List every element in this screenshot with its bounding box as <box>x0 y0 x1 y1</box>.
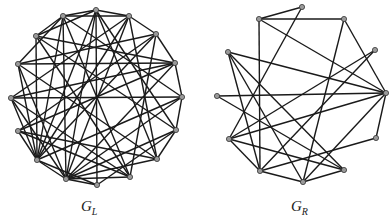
graph-canvas <box>0 0 392 221</box>
graph-edge <box>228 52 260 171</box>
graph-node <box>8 95 13 100</box>
graph-node <box>33 33 38 38</box>
graph-node <box>225 49 230 54</box>
graph-node <box>214 93 219 98</box>
graph-edge <box>63 16 182 97</box>
graph-node <box>154 156 159 161</box>
graph-node <box>226 136 231 141</box>
graph-node <box>256 16 261 21</box>
graph-node <box>94 182 99 187</box>
graph-node <box>15 128 20 133</box>
graph-node <box>373 135 378 140</box>
graph-edge <box>260 50 375 171</box>
graph-node <box>172 60 177 65</box>
graph-edge <box>18 63 175 64</box>
graph-node <box>300 179 305 184</box>
graph-node <box>153 31 158 36</box>
graph-node <box>60 13 65 18</box>
graph-edge <box>11 98 130 177</box>
graph-edge <box>259 7 302 19</box>
graph-edge <box>175 63 182 97</box>
graph-node <box>34 157 39 162</box>
graph-edge <box>260 171 303 182</box>
graph-node <box>179 94 184 99</box>
graph-node <box>173 127 178 132</box>
graph-edge <box>63 10 96 16</box>
graph-edge <box>37 16 129 160</box>
graph-node <box>383 90 388 95</box>
graph-node <box>15 61 20 66</box>
graph-edge <box>176 97 182 130</box>
graph-gl <box>8 7 184 187</box>
graph-node <box>63 176 68 181</box>
graph-node <box>341 167 346 172</box>
graph-gr <box>214 4 388 184</box>
graph-node <box>372 47 377 52</box>
graph-node <box>126 13 131 18</box>
graph-node <box>257 168 262 173</box>
graph-edge <box>229 50 375 139</box>
graph-node <box>299 4 304 9</box>
graph-edge <box>129 16 156 34</box>
graph-edge <box>96 10 129 16</box>
graph-node <box>93 7 98 12</box>
graph-edge <box>156 34 175 63</box>
graph-label-gl: GL <box>81 198 97 217</box>
graph-node <box>341 16 346 21</box>
graph-edge <box>66 179 97 185</box>
graph-edge <box>11 97 182 98</box>
graph-label-gr: GR <box>291 198 308 217</box>
graph-node <box>127 174 132 179</box>
graph-edge <box>376 93 386 138</box>
